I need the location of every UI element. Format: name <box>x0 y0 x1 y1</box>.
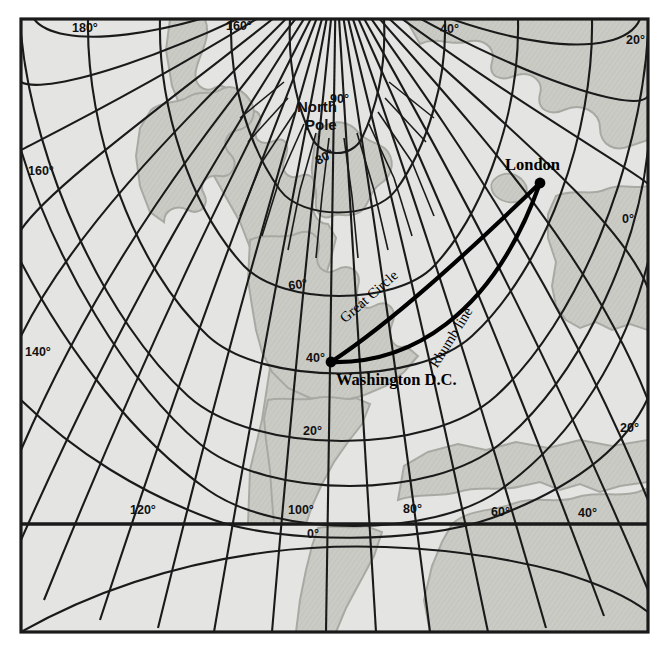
longitude-label-0: 180° <box>72 21 98 35</box>
longitude-label-14: 0° <box>307 527 319 541</box>
longitude-label-9: 120° <box>130 503 156 517</box>
london-dot[interactable] <box>535 178 546 189</box>
longitude-label-11: 80° <box>403 502 422 516</box>
longitude-label-3: 20° <box>626 33 645 47</box>
city-label-london: London <box>505 155 560 174</box>
latitude-label-3: 20° <box>303 424 322 438</box>
longitude-label-4: 90° <box>330 92 349 106</box>
city-label-washington-d-c: Washington D.C. <box>336 370 457 389</box>
longitude-label-8: 20° <box>620 421 639 435</box>
longitude-label-1: 160° <box>226 19 252 33</box>
longitude-label-13: 40° <box>578 506 597 520</box>
map-canvas[interactable]: North Pole 80°60°40°20° 180°160°40°20°90… <box>0 0 668 652</box>
washington-dot[interactable] <box>326 357 337 368</box>
latitude-label-1: 60° <box>287 276 308 292</box>
longitude-label-5: 160° <box>28 164 54 178</box>
latitude-label-2: 40° <box>306 351 325 365</box>
longitude-label-12: 60° <box>491 505 510 519</box>
longitude-label-7: 140° <box>25 345 51 359</box>
map-figure: North Pole 80°60°40°20° 180°160°40°20°90… <box>0 0 668 652</box>
pole-label-line2: Pole <box>305 116 337 133</box>
longitude-label-10: 100° <box>288 503 314 517</box>
longitude-label-6: 0° <box>622 212 634 226</box>
longitude-label-2: 40° <box>440 22 459 36</box>
